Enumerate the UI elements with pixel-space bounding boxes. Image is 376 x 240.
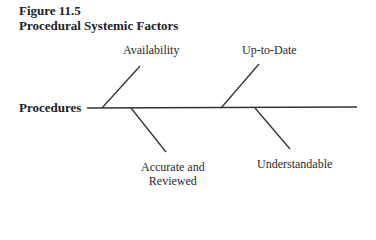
branch-availability-line [102,66,140,108]
branch-label-accurate-reviewed: Accurate and Reviewed [141,160,205,188]
branch-label-availability: Availability [123,43,179,57]
label-line-1: Accurate and [141,160,205,174]
branch-up-to-date-line [221,64,259,108]
branch-label-up-to-date: Up-to-Date [242,43,297,57]
branch-understandable-line [255,108,290,149]
branch-label-understandable: Understandable [257,157,332,171]
label-line-2: Reviewed [141,174,205,188]
branch-accurate-line [131,108,166,152]
spine-label: Procedures [19,100,81,116]
